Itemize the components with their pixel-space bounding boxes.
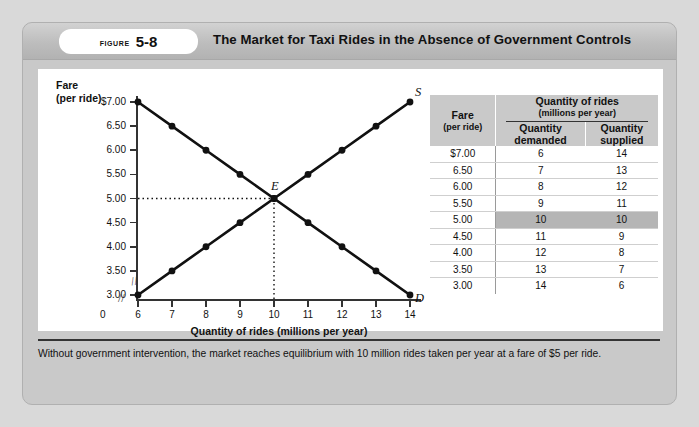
equilibrium-point-label: E	[271, 179, 279, 194]
data-point-marker	[169, 267, 176, 274]
cell-fare: 4.00	[430, 245, 496, 262]
cell-quantity-demanded: 11	[496, 228, 585, 245]
figure-number-pill: FIGURE 5-8	[59, 29, 198, 54]
cell-quantity-demanded: 8	[496, 179, 585, 196]
cell-fare: 5.50	[430, 195, 496, 212]
data-point-marker	[407, 292, 414, 299]
cell-fare: 5.00	[430, 212, 496, 229]
cell-quantity-supplied: 14	[585, 146, 658, 162]
cell-quantity-demanded: 10	[496, 212, 585, 229]
figure-label-word: FIGURE	[100, 36, 130, 48]
table-row: 6.00812	[430, 179, 658, 196]
table-row: 5.50911	[430, 195, 658, 212]
fare-column-header: Fare (per ride)	[430, 95, 496, 146]
data-point-marker	[237, 219, 244, 226]
quantity-supplied-header-sub: supplied	[586, 134, 658, 146]
cell-quantity-demanded: 9	[496, 195, 585, 212]
data-point-marker	[373, 267, 380, 274]
cell-quantity-supplied: 13	[585, 162, 658, 179]
quantity-table: Fare (per ride) Quantity of rides (milli…	[430, 95, 658, 294]
data-point-marker	[135, 292, 142, 299]
cell-fare: 6.00	[430, 179, 496, 196]
data-point-marker	[237, 171, 244, 178]
table-row: 6.50713	[430, 162, 658, 179]
data-point-marker	[305, 171, 312, 178]
figure-caption: Without government intervention, the mar…	[38, 347, 660, 361]
table-row: 4.00128	[430, 245, 658, 262]
fare-column-header-sub: (per ride)	[430, 121, 495, 133]
cell-fare: 6.50	[430, 162, 496, 179]
table-row: 4.50119	[430, 228, 658, 245]
table-body: $7.006146.507136.008125.509115.0010104.5…	[430, 146, 658, 294]
data-point-marker	[135, 99, 142, 106]
cell-quantity-supplied: 9	[585, 228, 658, 245]
table-row: 3.50137	[430, 261, 658, 278]
figure-number: 5-8	[136, 33, 158, 50]
quantity-demanded-header: Quantity demanded	[496, 122, 585, 146]
cell-fare: $7.00	[430, 146, 496, 162]
supply-curve-label: S	[415, 85, 421, 100]
quantity-demanded-header-main: Quantity	[496, 122, 584, 134]
quantity-table-grid: Fare (per ride) Quantity of rides (milli…	[430, 95, 658, 294]
quantity-demanded-header-sub: demanded	[496, 134, 584, 146]
cell-quantity-supplied: 8	[585, 245, 658, 262]
cell-quantity-supplied: 10	[585, 212, 658, 229]
table-row: 5.001010	[430, 212, 658, 229]
cell-fare: 4.50	[430, 228, 496, 245]
data-point-marker	[339, 243, 346, 250]
data-point-marker	[203, 147, 210, 154]
cell-quantity-supplied: 6	[585, 278, 658, 294]
quantity-group-header: Quantity of rides (millions per year)	[496, 95, 658, 122]
data-point-marker	[305, 219, 312, 226]
figure-body-panel: Fare (per ride) $7.006.506.005.505.004.5…	[38, 69, 663, 331]
cell-quantity-demanded: 14	[496, 278, 585, 294]
cell-quantity-demanded: 13	[496, 261, 585, 278]
data-point-marker	[373, 123, 380, 130]
cell-quantity-supplied: 7	[585, 261, 658, 278]
cell-quantity-supplied: 11	[585, 195, 658, 212]
figure-title: The Market for Taxi Rides in the Absence…	[213, 32, 631, 47]
data-point-marker	[407, 99, 414, 106]
quantity-supplied-header-main: Quantity	[586, 122, 658, 134]
table-group-header-row: Fare (per ride) Quantity of rides (milli…	[430, 95, 658, 122]
figure-card: FIGURE 5-8 The Market for Taxi Rides in …	[22, 22, 677, 405]
quantity-group-header-sub: (millions per year)	[496, 107, 658, 119]
figure-header-bar: FIGURE 5-8 The Market for Taxi Rides in …	[23, 23, 676, 60]
cell-quantity-demanded: 6	[496, 146, 585, 162]
data-point-marker	[169, 123, 176, 130]
data-point-marker	[203, 243, 210, 250]
caption-divider	[38, 339, 660, 341]
quantity-supplied-header: Quantity supplied	[585, 122, 658, 146]
cell-quantity-demanded: 7	[496, 162, 585, 179]
data-point-marker	[339, 147, 346, 154]
supply-demand-chart: Fare (per ride) $7.006.506.005.505.004.5…	[38, 69, 428, 331]
data-point-marker	[271, 195, 278, 202]
x-axis-title: Quantity of rides (millions per year)	[134, 325, 424, 337]
demand-curve-label: D	[415, 291, 424, 306]
table-row: $7.00614	[430, 146, 658, 162]
table-header: Fare (per ride) Quantity of rides (milli…	[430, 95, 658, 146]
fare-column-header-main: Fare	[430, 109, 495, 121]
cell-fare: 3.00	[430, 278, 496, 294]
table-row: 3.00146	[430, 278, 658, 294]
cell-quantity-supplied: 12	[585, 179, 658, 196]
cell-fare: 3.50	[430, 261, 496, 278]
cell-quantity-demanded: 12	[496, 245, 585, 262]
quantity-group-header-main: Quantity of rides	[496, 95, 658, 107]
curves-svg	[38, 69, 428, 331]
